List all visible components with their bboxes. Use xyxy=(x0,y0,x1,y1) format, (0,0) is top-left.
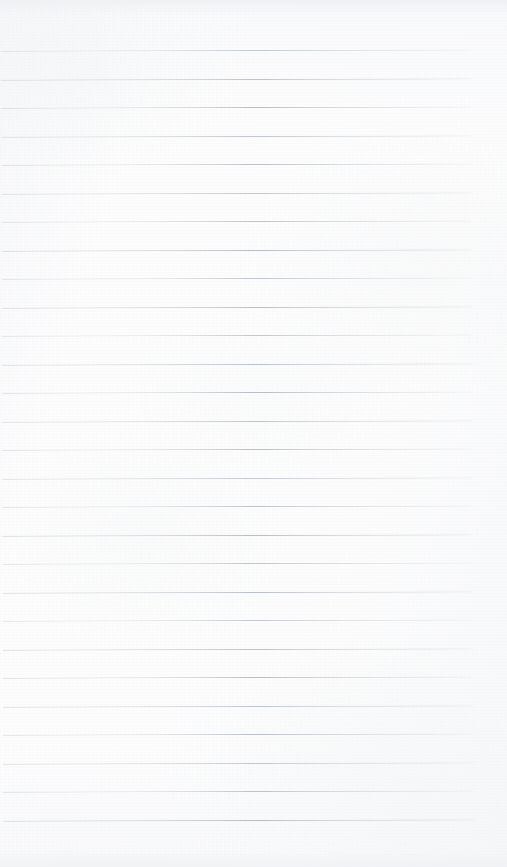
ruled-line xyxy=(2,420,473,422)
ruled-line xyxy=(3,790,474,792)
ruled-line xyxy=(3,619,474,621)
ruled-lines-group xyxy=(0,0,507,867)
notebook-page xyxy=(0,0,507,867)
ruled-line xyxy=(2,363,473,365)
ruled-line xyxy=(1,220,472,222)
ruled-line xyxy=(3,762,474,764)
ruled-line xyxy=(1,249,472,251)
scan-edge-shading-bottom xyxy=(0,851,507,867)
ruled-line xyxy=(1,49,472,51)
ruled-line xyxy=(3,648,474,650)
ruled-line xyxy=(3,676,474,678)
ruled-line xyxy=(2,534,473,536)
ruled-line xyxy=(2,591,473,593)
ruled-line xyxy=(2,277,473,279)
ruled-line xyxy=(2,505,473,507)
ruled-line xyxy=(1,78,472,80)
scan-edge-shading-top xyxy=(0,0,507,16)
ruled-line xyxy=(1,192,472,194)
ruled-line xyxy=(1,106,472,108)
ruled-line xyxy=(2,391,473,393)
paper-background xyxy=(0,0,507,867)
ruled-line xyxy=(2,334,473,336)
ruled-line xyxy=(3,705,474,707)
ruled-line xyxy=(2,562,473,564)
ruled-line xyxy=(1,163,472,165)
ruled-line xyxy=(2,448,473,450)
ruled-line xyxy=(2,477,473,479)
paper-texture-overlay xyxy=(0,0,507,867)
ruled-line xyxy=(2,306,473,308)
ruled-line xyxy=(3,733,474,735)
ruled-line xyxy=(3,819,474,821)
ruled-line xyxy=(1,135,472,137)
